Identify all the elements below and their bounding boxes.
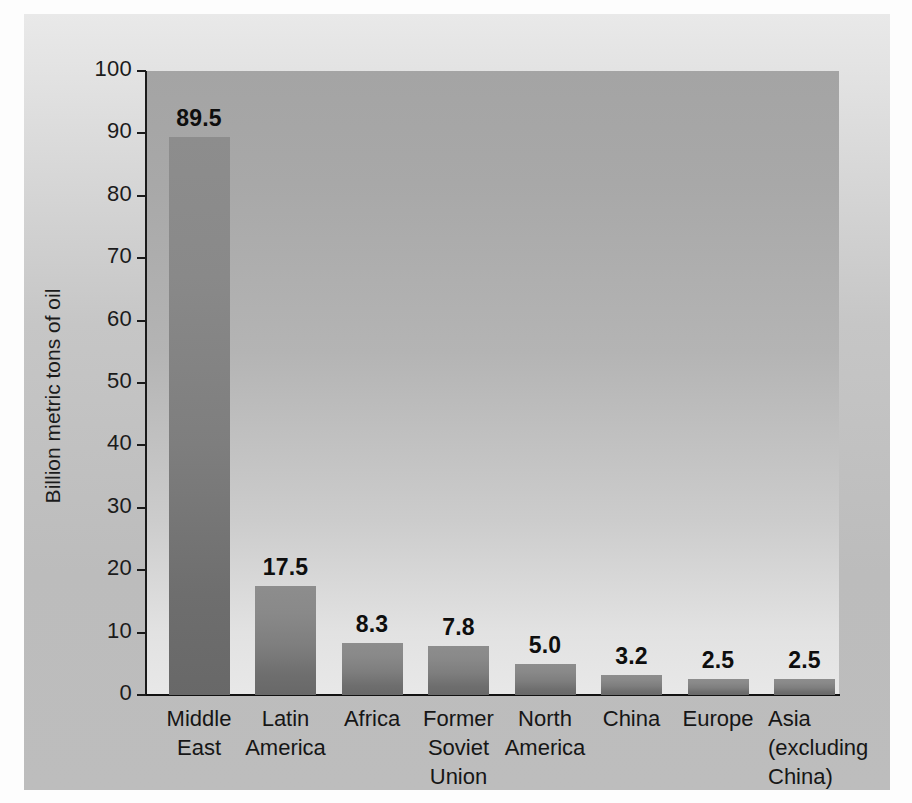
- bar: [601, 675, 662, 695]
- bar: [688, 679, 749, 695]
- y-tick-40: [137, 444, 146, 446]
- y-tick-label-10: 10: [72, 618, 132, 644]
- figure-container: 1009080706050403020100 Billion metric to…: [0, 0, 912, 803]
- y-tick-20: [137, 569, 146, 571]
- y-tick-70: [137, 257, 146, 259]
- bar-value-label: 2.5: [668, 647, 768, 674]
- bar-value-label: 7.8: [409, 614, 509, 641]
- bar-value-label: 3.2: [582, 643, 682, 670]
- bar-value-label: 8.3: [322, 611, 422, 638]
- y-tick-90: [137, 132, 146, 134]
- bar: [255, 586, 316, 695]
- bar: [428, 646, 489, 695]
- y-tick-label-80: 80: [72, 181, 132, 207]
- y-tick-label-70: 70: [72, 243, 132, 269]
- bar-value-label: 5.0: [495, 632, 595, 659]
- y-tick-80: [137, 195, 146, 197]
- bar: [169, 137, 230, 695]
- plot-area: [146, 71, 839, 695]
- bar: [515, 664, 576, 695]
- y-tick-100: [137, 70, 146, 72]
- y-tick-label-0: 0: [72, 680, 132, 706]
- y-tick-50: [137, 382, 146, 384]
- bar: [342, 643, 403, 695]
- bar-value-label: 89.5: [149, 105, 249, 132]
- y-tick-label-90: 90: [72, 118, 132, 144]
- y-tick-30: [137, 507, 146, 509]
- y-axis-title: Billion metric tons of oil: [41, 136, 65, 656]
- y-tick-label-60: 60: [72, 306, 132, 332]
- y-tick-label-40: 40: [72, 430, 132, 456]
- x-category-label: Asia (excluding China): [768, 704, 912, 791]
- y-axis-tick-labels: 1009080706050403020100: [64, 14, 132, 803]
- y-tick-label-20: 20: [72, 555, 132, 581]
- y-tick-label-50: 50: [72, 368, 132, 394]
- bar-value-label: 2.5: [755, 647, 855, 674]
- bar-value-label: 17.5: [236, 554, 336, 581]
- x-category-label: Europe: [648, 704, 788, 733]
- chart-card: 1009080706050403020100 Billion metric to…: [24, 14, 890, 790]
- y-tick-10: [137, 632, 146, 634]
- bar: [774, 679, 835, 695]
- y-tick-label-100: 100: [72, 56, 132, 82]
- y-tick-0: [137, 694, 146, 696]
- y-tick-label-30: 30: [72, 493, 132, 519]
- y-tick-60: [137, 320, 146, 322]
